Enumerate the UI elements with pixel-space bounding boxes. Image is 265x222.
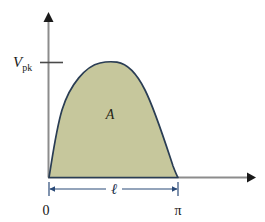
x-tick-label-origin: 0 bbox=[43, 203, 50, 218]
width-label: ℓ bbox=[111, 181, 117, 197]
half-sine-area-figure: A Vpk ℓ 0 π bbox=[0, 0, 265, 222]
x-tick-label-pi: π bbox=[174, 203, 181, 218]
peak-voltage-subscript: pk bbox=[22, 62, 32, 73]
area-label: A bbox=[105, 107, 115, 122]
figure-container: A Vpk ℓ 0 π bbox=[0, 0, 265, 222]
